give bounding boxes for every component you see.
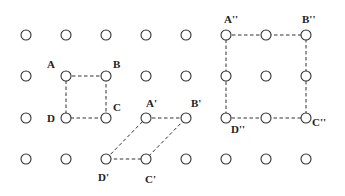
- dashed-edges: [66, 35, 306, 159]
- vertex-label: A: [47, 58, 55, 70]
- vertex-label: A': [146, 97, 157, 109]
- lattice-point: [21, 113, 31, 123]
- vertex-label: D': [98, 171, 109, 183]
- lattice-point: [61, 154, 71, 164]
- lattice-point: [101, 113, 111, 123]
- lattice-points: [21, 30, 311, 164]
- lattice-point: [221, 154, 231, 164]
- vertex-label: D'': [231, 123, 245, 135]
- vertex-label: C': [145, 173, 156, 185]
- lattice-point: [181, 113, 191, 123]
- vertex-label: B: [113, 58, 121, 70]
- lattice-point: [101, 30, 111, 40]
- vertex-label: B': [191, 97, 201, 109]
- lattice-point: [181, 30, 191, 40]
- lattice-point: [261, 154, 271, 164]
- diagram-canvas: ABCDA'B'C'D'A''B''C''D'': [0, 0, 345, 196]
- vertex-label: C'': [312, 116, 326, 128]
- lattice-point: [61, 113, 71, 123]
- lattice-point: [221, 71, 231, 81]
- lattice-point: [221, 113, 231, 123]
- lattice-point: [261, 113, 271, 123]
- vertex-label: C: [113, 101, 121, 113]
- vertex-label: D: [47, 112, 55, 124]
- lattice-point: [61, 71, 71, 81]
- lattice-point: [61, 30, 71, 40]
- lattice-point: [261, 71, 271, 81]
- lattice-point: [21, 30, 31, 40]
- lattice-point: [301, 71, 311, 81]
- lattice-point: [141, 113, 151, 123]
- lattice-point: [301, 113, 311, 123]
- shape-0-outline: [66, 76, 106, 118]
- lattice-point: [181, 154, 191, 164]
- lattice-point: [101, 71, 111, 81]
- lattice-diagram: ABCDA'B'C'D'A''B''C''D'': [0, 0, 345, 196]
- lattice-point: [301, 154, 311, 164]
- vertex-label: A'': [224, 13, 238, 25]
- lattice-point: [21, 154, 31, 164]
- lattice-point: [181, 71, 191, 81]
- lattice-point: [101, 154, 111, 164]
- lattice-point: [141, 71, 151, 81]
- lattice-point: [221, 30, 231, 40]
- lattice-point: [301, 30, 311, 40]
- vertex-label: B'': [302, 13, 315, 25]
- lattice-point: [21, 71, 31, 81]
- lattice-point: [141, 154, 151, 164]
- shape-1-outline: [106, 118, 186, 159]
- lattice-point: [141, 30, 151, 40]
- lattice-point: [261, 30, 271, 40]
